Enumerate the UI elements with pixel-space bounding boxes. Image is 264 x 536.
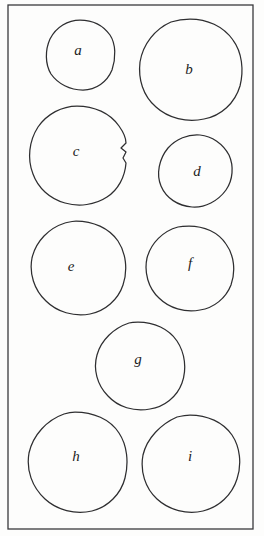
region-a-label: a xyxy=(74,42,82,58)
region-i-label: i xyxy=(188,448,192,464)
region-a: a xyxy=(46,20,114,90)
region-b: b xyxy=(140,19,242,120)
region-i: i xyxy=(142,415,240,512)
region-g: g xyxy=(95,322,184,410)
region-e-label: e xyxy=(68,258,75,274)
region-d: d xyxy=(159,135,233,207)
region-h-label: h xyxy=(72,448,80,464)
region-c: c xyxy=(30,106,126,205)
region-g-label: g xyxy=(134,351,142,367)
region-b-label: b xyxy=(185,61,193,77)
hand-drawn-regions-figure: abcdefghi xyxy=(0,0,264,536)
region-e: e xyxy=(31,221,126,315)
region-f: f xyxy=(146,226,234,311)
regions-group: abcdefghi xyxy=(28,19,242,512)
region-h: h xyxy=(28,412,127,512)
region-e-outline xyxy=(31,221,126,315)
figure-container: abcdefghi xyxy=(0,0,264,536)
region-c-label: c xyxy=(73,143,80,159)
region-d-label: d xyxy=(193,163,201,179)
